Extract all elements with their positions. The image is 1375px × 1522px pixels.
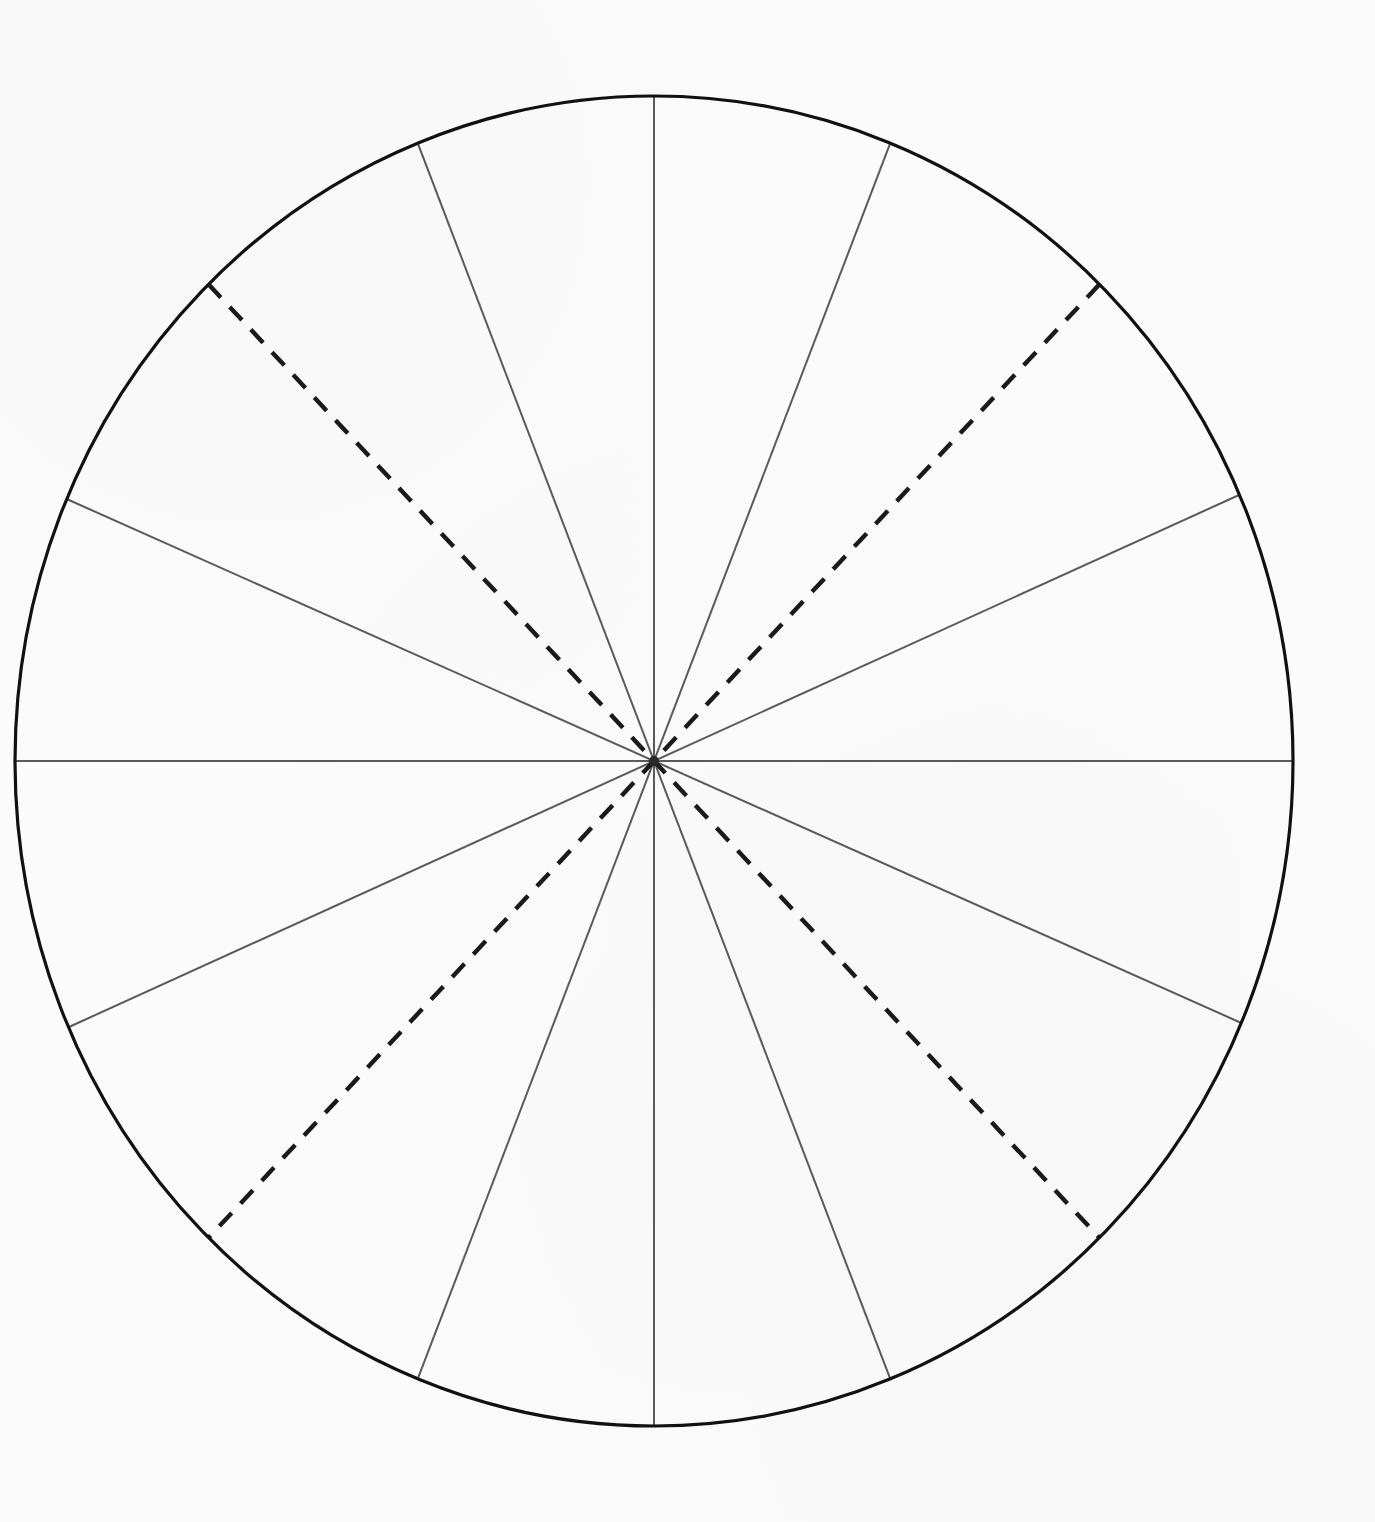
figure-root [0, 0, 1375, 1522]
pie-chart-figure [0, 0, 1375, 1522]
pie-centre-point [649, 756, 659, 766]
